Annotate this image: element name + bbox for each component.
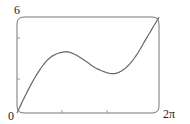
x-max-label: 2π bbox=[163, 108, 175, 120]
plot-frame bbox=[17, 17, 159, 113]
axis-ticks bbox=[17, 38, 107, 113]
y-max-label: 6 bbox=[14, 4, 20, 16]
function-curve bbox=[17, 17, 159, 113]
chart-canvas bbox=[0, 0, 190, 124]
x-min-label: 0 bbox=[8, 110, 14, 122]
